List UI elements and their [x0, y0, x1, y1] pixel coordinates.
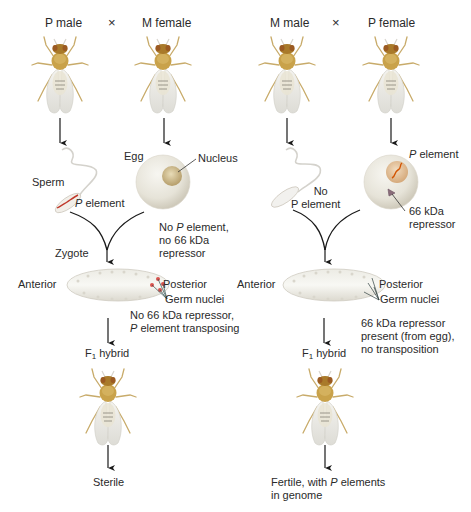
egg-note-line3: repressor	[159, 247, 229, 260]
label-egg: Egg	[124, 150, 144, 163]
label-anterior-left: Anterior	[18, 278, 57, 291]
zygote-note-r-line2: present (from egg),	[361, 330, 455, 343]
label-p-male: P male	[45, 17, 82, 30]
egg-p-rest: element	[416, 148, 458, 160]
sperm-note-line2: P element	[291, 198, 340, 211]
label-germ-nuclei-left: Germ nuclei	[165, 293, 224, 306]
label-m-male: M male	[270, 17, 309, 30]
m-female-fly	[135, 37, 191, 113]
repressor-line2: repressor	[409, 218, 455, 231]
label-zygote-note-left: No 66 kDa repressor, P element transposi…	[130, 309, 239, 335]
outcome-line2: in genome	[271, 489, 385, 502]
outcome-post: elements	[338, 476, 386, 488]
label-f1-hybrid-left: F1 hybrid	[85, 347, 129, 363]
repressor-line1: 66 kDa	[409, 205, 455, 218]
f1-left-fly	[80, 369, 136, 445]
f1-r-rest: hybrid	[313, 347, 346, 359]
egg-note-pre: No	[159, 221, 176, 233]
outcome-italic: P	[330, 476, 337, 488]
label-zygote: Zygote	[55, 247, 89, 260]
label-sperm-no-p: No P element	[291, 185, 340, 211]
label-m-female: M female	[142, 17, 191, 30]
p-male-fly	[32, 37, 88, 113]
label-f1-hybrid-right: F1 hybrid	[302, 347, 346, 363]
cross-symbol-left: ×	[108, 16, 116, 29]
label-sperm: Sperm	[32, 176, 64, 189]
label-sperm-p-element: P element	[75, 197, 125, 210]
zygote-note-r-line1: 66 kDa repressor	[361, 317, 455, 330]
label-anterior-right: Anterior	[237, 278, 276, 291]
label-66kda-repressor: 66 kDa repressor	[409, 205, 455, 231]
zygote-note-r-line3: no transposition	[361, 343, 455, 356]
cross-symbol-right: ×	[332, 16, 340, 29]
label-zygote-note-right: 66 kDa repressor present (from egg), no …	[361, 317, 455, 356]
p-female-fly	[363, 37, 419, 113]
zygote-note-rest: element transposing	[137, 322, 239, 334]
p-rest: element	[82, 197, 124, 209]
m-male-fly	[259, 37, 315, 113]
label-outcome-sterile: Sterile	[93, 476, 124, 489]
sperm-note-line1: No	[291, 185, 340, 198]
outcome-pre: Fertile, with	[271, 476, 330, 488]
zygote-note-line1: No 66 kDa repressor,	[130, 309, 239, 322]
label-posterior-right: Posterior	[379, 278, 423, 291]
label-p-female: P female	[368, 17, 415, 30]
label-egg-note: No P element, no 66 kDa repressor	[159, 221, 229, 260]
label-posterior-left: Posterior	[163, 278, 207, 291]
label-nucleus: Nucleus	[198, 152, 238, 165]
egg-note-post: element,	[183, 221, 228, 233]
f1-right-fly	[297, 369, 353, 445]
f1-rest: hybrid	[96, 347, 129, 359]
label-egg-p-element: P element	[409, 148, 459, 161]
label-germ-nuclei-right: Germ nuclei	[380, 293, 439, 306]
label-outcome-fertile: Fertile, with P elements in genome	[271, 476, 385, 502]
f1-main: F	[85, 347, 92, 359]
f1-r-main: F	[302, 347, 309, 359]
egg-note-line2: no 66 kDa	[159, 234, 229, 247]
